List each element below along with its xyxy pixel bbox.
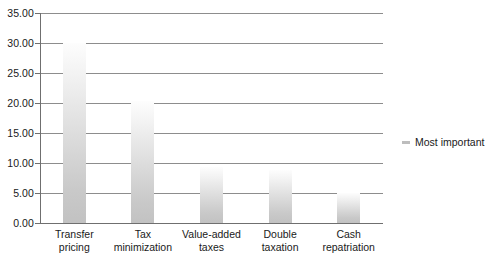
y-axis-tick-label: 25.00 bbox=[0, 67, 34, 79]
x-axis-label-line: Transfer bbox=[40, 228, 109, 241]
x-axis-label-line: minimization bbox=[109, 241, 178, 254]
y-axis-tick-label: 35.00 bbox=[0, 7, 34, 19]
gridline bbox=[40, 223, 383, 224]
x-axis-label-line: taxation bbox=[246, 241, 315, 254]
x-axis-label: Doubletaxation bbox=[246, 228, 315, 253]
y-axis-tick-label: 15.00 bbox=[0, 127, 34, 139]
x-axis-label: Transferpricing bbox=[40, 228, 109, 253]
x-axis-labels: TransferpricingTaxminimizationValue-adde… bbox=[40, 228, 383, 274]
bar bbox=[200, 167, 223, 223]
bar bbox=[63, 43, 86, 223]
legend-swatch-icon bbox=[402, 141, 410, 144]
x-axis-label-line: taxes bbox=[177, 241, 246, 254]
y-axis-tick-label: 0.00 bbox=[0, 217, 34, 229]
x-axis-label-line: Value-added bbox=[177, 228, 246, 241]
x-axis-label: Taxminimization bbox=[109, 228, 178, 253]
x-axis-label-line: pricing bbox=[40, 241, 109, 254]
legend-item-label: Most important bbox=[415, 136, 484, 148]
bar bbox=[337, 193, 360, 223]
x-axis-label-line: Cash bbox=[314, 228, 383, 241]
x-axis-label-line: Tax bbox=[109, 228, 178, 241]
x-axis-label-line: repatriation bbox=[314, 241, 383, 254]
bar-chart: 0.005.0010.0015.0020.0025.0030.0035.00 T… bbox=[0, 0, 489, 278]
y-axis-tick-label: 5.00 bbox=[0, 187, 34, 199]
y-axis-tick-label: 10.00 bbox=[0, 157, 34, 169]
bars-layer bbox=[40, 13, 383, 223]
bar bbox=[269, 170, 292, 223]
y-axis-tick-label: 30.00 bbox=[0, 37, 34, 49]
y-axis-tick bbox=[35, 223, 40, 224]
x-axis-label-line: Double bbox=[246, 228, 315, 241]
chart-legend: Most important bbox=[402, 136, 484, 148]
x-axis-label: Value-addedtaxes bbox=[177, 228, 246, 253]
x-axis-label: Cashrepatriation bbox=[314, 228, 383, 253]
bar bbox=[131, 101, 154, 223]
y-axis-tick-label: 20.00 bbox=[0, 97, 34, 109]
